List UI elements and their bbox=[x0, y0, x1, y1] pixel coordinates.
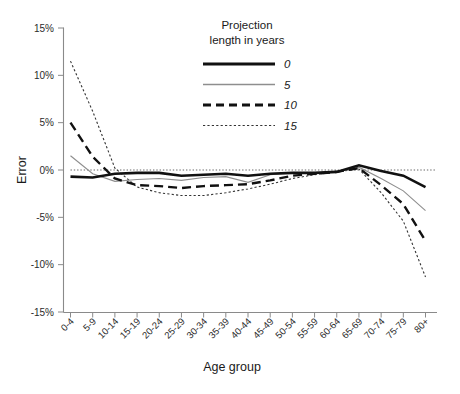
y-tick-label: 10% bbox=[34, 70, 54, 81]
legend-label-10: 10 bbox=[284, 99, 297, 111]
x-axis-title: Age group bbox=[203, 360, 261, 374]
y-tick-label: -10% bbox=[31, 259, 54, 270]
legend-label-15: 15 bbox=[284, 120, 297, 132]
error-by-age-group-line-chart: -15%-10%-5%0%5%10%15% Error 0-45-910-141… bbox=[0, 0, 460, 394]
y-tick-label: 5% bbox=[40, 117, 55, 128]
legend-label-0: 0 bbox=[284, 58, 291, 70]
legend-title-line2: length in years bbox=[210, 34, 285, 46]
y-tick-label: 0% bbox=[40, 165, 55, 176]
y-tick-label: -5% bbox=[36, 212, 54, 223]
legend-title-line1: Projection bbox=[221, 19, 272, 31]
y-axis-title: Error bbox=[15, 156, 29, 184]
legend-label-5: 5 bbox=[284, 79, 291, 91]
y-tick-label: 15% bbox=[34, 23, 54, 34]
y-tick-label: -15% bbox=[31, 307, 54, 318]
